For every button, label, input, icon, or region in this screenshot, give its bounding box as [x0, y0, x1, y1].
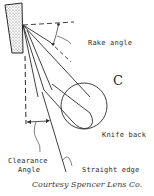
- clearance-angle-marker: [27, 119, 50, 152]
- rake-angle-marker: [51, 23, 71, 46]
- specimen-block: [5, 3, 23, 53]
- region-c-label: C: [113, 73, 123, 88]
- knife-wedge: [23, 25, 90, 97]
- straight-edge-label: Straight edge: [82, 166, 139, 174]
- clearance-angle-label-line1: Clearance: [8, 157, 48, 165]
- clearance-angle-label-line2: Angle: [18, 166, 40, 174]
- knife-back-label: Knife back: [102, 131, 146, 139]
- rake-angle-label: Rake angle: [88, 39, 132, 47]
- image-credit: Courtesy Spencer Lens Co.: [32, 180, 142, 189]
- vertical-reference-line: [25, 56, 26, 124]
- horizontal-reference-line: [23, 22, 74, 25]
